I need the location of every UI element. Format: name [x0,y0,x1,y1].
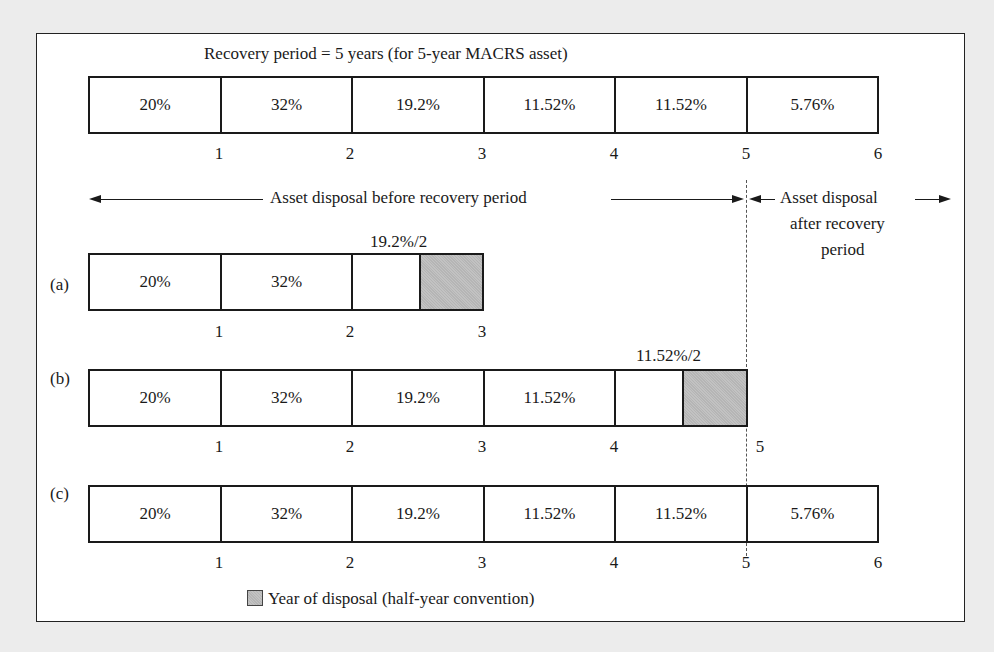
tick-label: 1 [215,553,224,573]
tick-label: 1 [215,144,224,164]
tick-label: 3 [478,144,487,164]
arrow-line [100,199,263,200]
before-recovery-label: Asset disposal before recovery period [270,188,527,208]
legend-swatch [247,590,263,606]
rate-cell: 32% [222,371,353,425]
legend-label: Year of disposal (half-year convention) [268,589,534,609]
recovery-bar: 20% 32% 19.2% 11.52% 11.52% 5.76% [88,76,879,134]
after-recovery-label-line3: period [821,240,864,260]
scenario-a-bar: 20% 32% [88,253,484,311]
arrow-line [915,199,940,200]
rate-cell: 20% [90,371,222,425]
after-recovery-label-line1: Asset disposal [780,188,878,208]
half-year-label-a: 19.2%/2 [370,232,427,252]
rate-cell: 5.76% [748,78,877,132]
scenario-c-bar: 20% 32% 19.2% 11.52% 11.52% 5.76% [88,485,879,543]
rate-cell: 20% [90,78,222,132]
rate-cell: 11.52% [616,487,748,541]
scenario-label-b: (b) [50,369,70,389]
tick-label: 4 [610,437,619,457]
tick-label: 2 [346,553,355,573]
after-recovery-label-line2: after recovery [790,214,885,234]
tick-label: 4 [610,553,619,573]
tick-label: 6 [874,144,883,164]
tick-label: 5 [756,437,765,457]
tick-label: 6 [874,553,883,573]
disposal-year-cell [684,371,746,425]
rate-cell: 20% [90,255,222,309]
rate-cell: 11.52% [616,78,748,132]
rate-cell: 32% [222,78,353,132]
tick-label: 4 [610,144,619,164]
tick-label: 5 [742,144,751,164]
tick-label: 3 [478,553,487,573]
rate-cell: 32% [222,487,353,541]
tick-label: 5 [742,553,751,573]
tick-label: 1 [215,437,224,457]
rate-cell: 11.52% [485,487,616,541]
tick-label: 3 [478,322,487,342]
tick-label: 3 [478,437,487,457]
scenario-label-a: (a) [50,275,69,295]
tick-label: 2 [346,437,355,457]
rate-cell: 19.2% [353,487,485,541]
half-year-label-b: 11.52%/2 [636,346,701,366]
rate-cell: 11.52% [485,78,616,132]
arrow-line [760,199,775,200]
diagram-title: Recovery period = 5 years (for 5-year MA… [204,44,568,64]
tick-label: 2 [346,144,355,164]
arrow-right-icon [732,195,744,203]
tick-label: 1 [215,322,224,342]
rate-cell: 11.52% [485,371,616,425]
disposal-year-cell [421,255,482,309]
tick-label: 2 [346,322,355,342]
scenario-label-c: (c) [50,484,69,504]
rate-cell: 19.2% [353,371,485,425]
rate-cell: 19.2% [353,78,485,132]
rate-cell [616,371,684,425]
arrow-right-icon [939,195,951,203]
rate-cell: 32% [222,255,353,309]
arrow-line [611,199,733,200]
rate-cell [353,255,421,309]
scenario-b-bar: 20% 32% 19.2% 11.52% [88,369,748,427]
rate-cell: 5.76% [748,487,877,541]
rate-cell: 20% [90,487,222,541]
